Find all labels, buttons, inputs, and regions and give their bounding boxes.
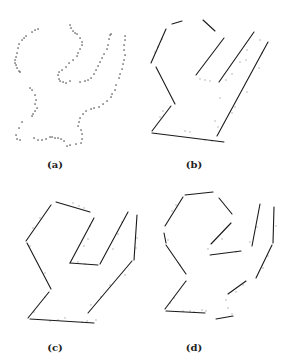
noise-point <box>84 208 85 209</box>
edge-point <box>77 125 78 126</box>
noise-point <box>259 68 260 69</box>
edge-point <box>123 59 124 60</box>
noise-point <box>206 311 207 312</box>
edge-point <box>119 73 120 74</box>
noise-point <box>247 92 248 93</box>
noise-point <box>240 62 241 63</box>
noise-point <box>218 127 219 128</box>
edge-point <box>72 59 73 60</box>
line-segment <box>256 245 272 278</box>
noise-point <box>250 242 251 243</box>
line-segment <box>152 106 171 131</box>
line-segment <box>219 198 232 214</box>
edge-point <box>21 39 22 40</box>
edge-point <box>54 137 55 138</box>
edge-point <box>79 37 80 38</box>
line-segment <box>203 20 215 31</box>
edge-point <box>61 69 62 70</box>
edge-point <box>111 93 112 94</box>
noise-point <box>222 239 223 240</box>
edge-point <box>93 107 94 108</box>
noise-point <box>137 238 138 239</box>
noise-point <box>210 81 211 82</box>
noise-point <box>226 300 227 301</box>
edge-point <box>79 48 80 49</box>
noise-point <box>263 268 264 269</box>
noise-point <box>220 98 221 99</box>
edge-point <box>31 89 32 90</box>
edge-point <box>23 37 24 38</box>
noise-point <box>246 60 247 61</box>
edge-point <box>19 139 20 140</box>
edge-point <box>75 143 76 144</box>
noise-point <box>84 246 85 247</box>
noise-point <box>243 285 244 286</box>
edge-point <box>74 32 75 33</box>
edge-point <box>124 35 125 36</box>
noise-point <box>232 74 233 75</box>
edge-point <box>78 121 79 122</box>
panel-b-line-segments <box>151 20 268 142</box>
line-segment <box>166 245 186 274</box>
noise-point <box>79 206 80 207</box>
noise-point <box>185 131 186 132</box>
line-segment <box>88 261 132 313</box>
edge-point <box>76 55 77 56</box>
edge-point <box>65 66 66 67</box>
line-segment <box>152 133 224 142</box>
edge-point <box>69 80 70 81</box>
edge-point <box>90 108 91 109</box>
edge-point <box>79 117 80 118</box>
edge-point <box>122 63 123 64</box>
edge-point <box>14 59 15 60</box>
noise-point <box>91 305 92 306</box>
edge-point <box>110 33 111 34</box>
line-segment <box>185 192 213 195</box>
edge-point <box>36 107 37 108</box>
line-segment <box>156 67 175 104</box>
edge-point <box>60 138 61 139</box>
line-segment <box>166 311 205 313</box>
edge-point <box>80 142 81 143</box>
edge-point <box>19 71 20 72</box>
line-segment <box>165 197 183 226</box>
edge-point <box>79 81 80 82</box>
edge-point <box>16 67 17 68</box>
edge-point <box>85 110 86 111</box>
noise-point <box>208 249 209 250</box>
noise-point <box>88 239 89 240</box>
edge-point <box>32 113 33 114</box>
line-segment <box>252 204 260 246</box>
noise-point <box>260 40 261 41</box>
edge-point <box>29 87 30 88</box>
edge-point <box>51 136 52 137</box>
edge-point <box>34 29 35 30</box>
edge-point <box>80 129 81 130</box>
edge-point <box>58 71 59 72</box>
edge-point <box>66 145 67 146</box>
noise-point <box>125 275 126 276</box>
noise-point <box>176 205 177 206</box>
edge-point <box>87 79 88 80</box>
panel-d-line-segments <box>164 192 277 319</box>
edge-point <box>115 84 116 85</box>
noise-point <box>232 113 233 114</box>
edge-point <box>16 52 17 53</box>
noise-point <box>232 314 233 315</box>
edge-point <box>59 80 60 81</box>
edge-point <box>58 78 59 79</box>
noise-point <box>113 249 114 250</box>
edge-point <box>34 103 35 104</box>
edge-point <box>98 106 99 107</box>
edge-point <box>81 44 82 45</box>
edge-point <box>123 49 124 50</box>
line-segment <box>165 281 186 309</box>
line-segment <box>70 263 98 265</box>
noise-point <box>45 273 46 274</box>
noise-point <box>118 234 119 235</box>
noise-point <box>276 226 277 227</box>
edge-point <box>90 77 91 78</box>
noise-point <box>172 211 173 212</box>
noise-point <box>136 248 137 249</box>
line-segment <box>211 223 231 244</box>
